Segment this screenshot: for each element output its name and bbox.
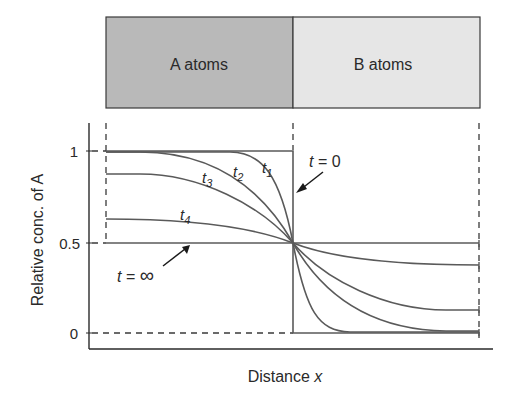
tinf-annotation: t = ∞ xyxy=(117,245,190,286)
label-t1: t1 xyxy=(262,159,272,179)
concentration-curves xyxy=(106,151,479,333)
y-axis-label: Relative conc. of A xyxy=(29,173,46,306)
t0-label: t = 0 xyxy=(309,153,341,170)
y-tick-label-0: 0 xyxy=(70,325,78,342)
curve-labels: t1 t2 t3 t4 xyxy=(180,159,272,226)
y-tick-label-1: 1 xyxy=(70,143,78,160)
t0-arrow-head xyxy=(296,183,307,193)
t0-annotation: t = 0 xyxy=(296,153,341,193)
label-t2: t2 xyxy=(233,163,243,183)
diffusion-figure: A atoms B atoms 1 0.5 0 Relative conc. o… xyxy=(0,0,518,403)
atoms-box: A atoms B atoms xyxy=(106,17,480,108)
b-atoms-label: B atoms xyxy=(354,56,413,73)
tinf-arrow-shaft xyxy=(163,249,185,266)
y-tick-label-0.5: 0.5 xyxy=(59,235,80,252)
a-atoms-label: A atoms xyxy=(170,56,228,73)
x-axis-label-text: Distance xyxy=(248,368,315,385)
x-axis-label: Distance x xyxy=(248,368,324,385)
tinf-label: t = ∞ xyxy=(117,264,154,286)
label-t4: t4 xyxy=(180,206,190,226)
label-t3: t3 xyxy=(202,169,213,189)
x-axis-label-var: x xyxy=(313,368,323,385)
